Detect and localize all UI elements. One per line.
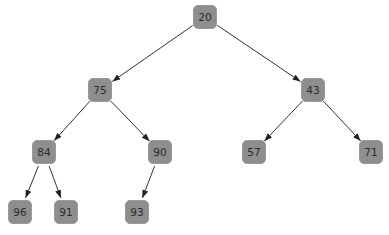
node-value: 96 — [13, 206, 26, 218]
tree-edge-arrow — [54, 101, 90, 141]
tree-node-leaf: 96 — [8, 200, 32, 224]
node-value: 75 — [93, 84, 106, 96]
tree-node-leaf: 93 — [125, 200, 149, 224]
node-value: 91 — [59, 206, 72, 218]
node-value: 43 — [306, 84, 319, 96]
tree-edge-arrow — [112, 26, 192, 82]
tree-node-leaf: 91 — [54, 200, 78, 224]
node-value: 57 — [247, 146, 260, 158]
tree-node: 43 — [301, 78, 325, 102]
tree-edge-arrow — [142, 166, 154, 198]
node-value: 71 — [364, 146, 377, 158]
tree-node: 90 — [148, 140, 172, 164]
node-value: 90 — [153, 146, 166, 158]
tree-node-root: 20 — [193, 5, 217, 29]
tree-edge-arrow — [323, 101, 361, 141]
tree-node-leaf: 57 — [242, 140, 266, 164]
tree-node: 75 — [88, 78, 112, 102]
tree-node-leaf: 71 — [359, 140, 383, 164]
tree-node: 84 — [32, 140, 56, 164]
node-value: 93 — [130, 206, 143, 218]
node-value: 20 — [198, 11, 211, 23]
node-value: 84 — [37, 146, 50, 158]
tree-edge-arrow — [49, 166, 61, 198]
tree-edge-arrow — [217, 25, 300, 81]
tree-edge-arrow — [110, 101, 149, 141]
tree-edge-arrow — [26, 166, 39, 198]
tree-edge-arrow — [264, 101, 302, 141]
